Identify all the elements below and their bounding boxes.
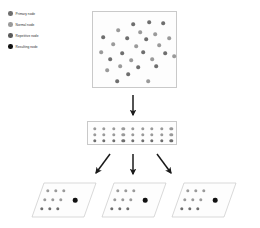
graph-node — [126, 207, 129, 210]
graph-node — [125, 36, 129, 40]
graph-node — [116, 189, 119, 192]
graph-node — [150, 133, 153, 136]
diagram-canvas: Primary node Normal node Repetitive node… — [0, 0, 260, 228]
legend-item-primary-node: Primary node — [8, 9, 72, 18]
graph-node — [122, 127, 125, 130]
arrow-grid-to-plane-3 — [157, 154, 171, 173]
graph-node — [199, 198, 202, 201]
graph-node — [112, 127, 115, 130]
graph-node — [129, 198, 132, 201]
sampled-plane-2 — [101, 182, 167, 218]
graph-node — [121, 198, 124, 201]
plane-node-grid — [171, 182, 237, 218]
graph-node — [160, 133, 163, 136]
graph-node — [153, 32, 157, 36]
graph-node — [172, 54, 176, 58]
legend-item-normal-node: Normal node — [8, 20, 72, 29]
graph-node — [180, 207, 183, 210]
graph-node — [118, 207, 121, 210]
graph-node — [99, 50, 103, 54]
graph-node — [101, 35, 105, 39]
graph-node — [105, 68, 109, 72]
graph-node — [138, 30, 142, 34]
graph-node — [131, 133, 134, 136]
graph-node — [48, 207, 51, 210]
graph-node — [54, 189, 57, 192]
source-node-cloud-panel — [92, 11, 177, 88]
legend-item-label: Repetitive node — [16, 34, 39, 38]
graph-node — [120, 51, 124, 55]
graph-node — [110, 207, 113, 210]
sampled-plane-1 — [31, 182, 97, 218]
graph-node — [157, 43, 161, 47]
graph-node — [150, 57, 154, 61]
graph-node — [126, 72, 130, 76]
graph-node — [194, 189, 197, 192]
graph-node — [146, 79, 150, 83]
graph-node — [93, 139, 96, 142]
filled-circle-icon — [8, 11, 13, 16]
legend-item-label: Resulting node — [16, 45, 38, 49]
graph-node — [122, 133, 125, 136]
resulting-node — [143, 198, 148, 203]
graph-node — [40, 207, 43, 210]
graph-node — [111, 42, 115, 46]
graph-node — [141, 127, 144, 130]
normalized-node-grid-panel — [87, 121, 177, 145]
graph-node — [132, 189, 135, 192]
graph-node — [131, 127, 134, 130]
graph-node — [93, 133, 96, 136]
graph-node — [186, 189, 189, 192]
graph-node — [113, 198, 116, 201]
graph-node — [170, 139, 173, 142]
graph-node — [150, 139, 153, 142]
graph-node — [131, 139, 134, 142]
graph-node — [150, 127, 153, 130]
graph-node — [170, 127, 173, 130]
arrow-grid-to-plane-1 — [96, 154, 110, 173]
filled-circle-icon — [8, 44, 13, 49]
plane-node-grid — [101, 182, 167, 218]
graph-node — [112, 133, 115, 136]
graph-node — [170, 133, 173, 136]
graph-node — [160, 127, 163, 130]
graph-node — [147, 20, 151, 24]
graph-node — [102, 127, 105, 130]
graph-node — [188, 207, 191, 210]
graph-node — [141, 139, 144, 142]
resulting-node — [213, 198, 218, 203]
graph-node — [202, 189, 205, 192]
graph-node — [93, 127, 96, 130]
legend: Primary node Normal node Repetitive node… — [8, 9, 72, 53]
graph-node — [116, 28, 120, 32]
graph-node — [136, 65, 140, 69]
filled-circle-icon — [8, 33, 13, 38]
graph-node — [191, 198, 194, 201]
graph-node — [131, 22, 135, 26]
graph-node — [196, 207, 199, 210]
graph-node — [118, 64, 122, 68]
graph-node — [43, 198, 46, 201]
graph-node — [144, 37, 148, 41]
graph-node — [102, 133, 105, 136]
legend-item-label: Primary node — [16, 12, 36, 16]
graph-node — [108, 57, 112, 61]
legend-item-label: Normal node — [16, 23, 35, 27]
graph-node — [161, 21, 165, 25]
graph-node — [134, 44, 138, 48]
graph-node — [124, 189, 127, 192]
sampled-plane-3 — [171, 182, 237, 218]
graph-node — [167, 36, 171, 40]
graph-node — [46, 189, 49, 192]
graph-node — [51, 198, 54, 201]
graph-node — [129, 58, 133, 62]
graph-node — [141, 50, 145, 54]
graph-node — [56, 207, 59, 210]
filled-circle-icon — [8, 22, 13, 27]
graph-node — [154, 64, 158, 68]
graph-node — [141, 133, 144, 136]
legend-item-repetitive-node: Repetitive node — [8, 31, 72, 40]
graph-node — [112, 139, 115, 142]
graph-node — [160, 139, 163, 142]
resulting-node — [73, 198, 78, 203]
